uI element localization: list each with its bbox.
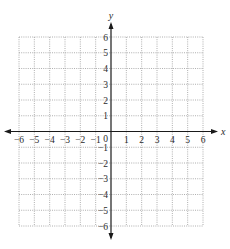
coordinate-plane: −6−5−4−3−2−1123456−6−5−4−3−2−11234560xy [0, 0, 230, 249]
y-tick-label: 2 [103, 96, 108, 106]
x-tick-label: 2 [139, 135, 144, 145]
y-tick-label: 6 [103, 33, 108, 43]
x-axis-left-arrow-icon [4, 129, 11, 134]
x-tick-label: −4 [45, 135, 55, 145]
y-tick-label: −6 [98, 222, 108, 232]
x-axis-right-arrow-icon [211, 129, 218, 134]
y-tick-label: 3 [103, 80, 108, 90]
y-axis-label: y [108, 10, 114, 21]
x-tick-label: −6 [14, 135, 24, 145]
x-tick-label: −2 [75, 135, 85, 145]
x-tick-label: 6 [201, 135, 206, 145]
y-tick-label: −5 [98, 206, 108, 216]
x-tick-label: −5 [29, 135, 39, 145]
x-tick-label: 3 [155, 135, 160, 145]
x-tick-label: −3 [60, 135, 70, 145]
axes [4, 22, 218, 240]
origin-label: 0 [103, 134, 108, 144]
x-axis-label: x [220, 126, 226, 137]
y-tick-label: 1 [103, 111, 108, 121]
x-tick-label: 1 [124, 135, 129, 145]
y-tick-label: −1 [98, 143, 108, 153]
y-axis-up-arrow-icon [109, 22, 114, 29]
y-tick-label: 4 [103, 64, 108, 74]
y-tick-label: −2 [98, 159, 108, 169]
y-tick-label: −4 [98, 190, 108, 200]
x-tick-label: 5 [185, 135, 190, 145]
x-tick-label: 4 [170, 135, 175, 145]
y-tick-label: 5 [103, 48, 108, 58]
y-tick-label: −3 [98, 174, 108, 184]
y-axis-down-arrow-icon [109, 233, 114, 240]
tick-labels: −6−5−4−3−2−1123456−6−5−4−3−2−11234560xy [14, 10, 226, 232]
